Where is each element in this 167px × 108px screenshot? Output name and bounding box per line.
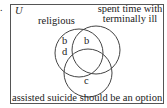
region-religious-only-d: d — [62, 46, 67, 57]
spent-time-label: spent time with terminally ill — [96, 4, 164, 24]
assisted-label: assisted suicide should be an option — [12, 93, 162, 103]
region-religious-spent-b: b — [84, 35, 89, 46]
region-assisted-only-c: c — [84, 75, 89, 86]
universe-label: U — [15, 6, 23, 16]
region-religious-only-b: b — [62, 35, 67, 46]
spent-time-label-line2: terminally ill — [96, 14, 164, 24]
religious-label: religious — [38, 16, 75, 26]
